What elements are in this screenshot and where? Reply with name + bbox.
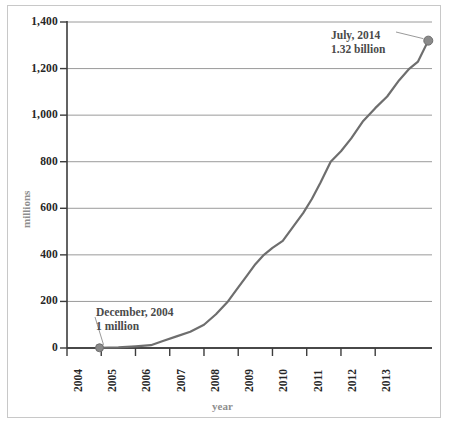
start-annotation: December, 2004 1 million xyxy=(96,305,174,333)
x-axis-title: year xyxy=(212,400,233,412)
start-annotation-line1: December, 2004 xyxy=(96,305,174,319)
y-tick-label-1,000: 1,000 xyxy=(14,108,58,120)
x-tick-label-2008: 2008 xyxy=(209,369,221,392)
x-tick-label-2009: 2009 xyxy=(243,369,255,392)
y-tick-label-1,400: 1,400 xyxy=(14,15,58,27)
end-annotation-line2: 1.32 billion xyxy=(331,42,385,56)
x-tick-label-2006: 2006 xyxy=(140,369,152,392)
x-tick-label-2005: 2005 xyxy=(106,369,118,392)
start-annotation-line2: 1 million xyxy=(96,319,174,333)
chart-screenshot: 02004006008001,0001,2001,400 20042005200… xyxy=(0,0,449,426)
x-tick-label-2004: 2004 xyxy=(72,369,84,392)
x-tick-label-2011: 2011 xyxy=(312,370,324,392)
x-axis-ticks xyxy=(67,348,375,356)
x-tick-label-2010: 2010 xyxy=(277,369,289,392)
end-annotation-leader-line xyxy=(396,32,423,39)
end-annotation: July, 2014 1.32 billion xyxy=(331,28,385,56)
y-tick-label-400: 400 xyxy=(14,248,58,260)
x-tick-label-2012: 2012 xyxy=(346,369,358,392)
y-axis-title: millions xyxy=(20,191,32,228)
y-tick-label-0: 0 xyxy=(14,341,58,353)
gridlines xyxy=(60,22,432,348)
y-tick-label-800: 800 xyxy=(14,155,58,167)
y-tick-label-1,200: 1,200 xyxy=(14,62,58,74)
end-annotation-line1: July, 2014 xyxy=(331,28,385,42)
x-tick-label-2007: 2007 xyxy=(175,369,187,392)
start-marker xyxy=(96,344,104,352)
y-tick-label-200: 200 xyxy=(14,294,58,306)
x-tick-label-2013: 2013 xyxy=(380,369,392,392)
end-marker xyxy=(424,36,433,45)
line-chart-graphic xyxy=(0,0,449,426)
